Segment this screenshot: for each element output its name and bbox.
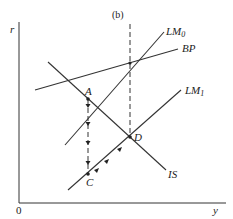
arrow-up-right-icon bbox=[94, 168, 99, 173]
diagram-title: (b) bbox=[112, 9, 124, 21]
lm1-curve bbox=[68, 90, 181, 190]
is-curve bbox=[48, 62, 166, 170]
point-d bbox=[128, 135, 132, 139]
y-axis-label: r bbox=[10, 23, 15, 35]
point-c-label: C bbox=[86, 176, 94, 188]
lm0-curve bbox=[65, 32, 164, 145]
arrow-down-icon bbox=[86, 122, 91, 126]
diagram-canvas: (b) r 0 y BP LM0 IS LM1 A D C bbox=[0, 0, 233, 219]
point-d-label: D bbox=[133, 131, 142, 143]
arrow-down-icon bbox=[86, 161, 91, 165]
point-a-label: A bbox=[84, 85, 92, 97]
arrow-down-icon bbox=[86, 104, 91, 108]
x-axis-label: y bbox=[212, 204, 218, 216]
arrow-up-right-icon bbox=[104, 159, 109, 164]
origin-label: 0 bbox=[16, 204, 22, 216]
islm-bp-diagram: (b) r 0 y BP LM0 IS LM1 A D C bbox=[0, 0, 233, 219]
point-a bbox=[86, 97, 90, 101]
bp-label: BP bbox=[182, 42, 196, 54]
arrow-down-icon bbox=[86, 141, 91, 145]
is-label: IS bbox=[167, 168, 178, 180]
arrow-up-right-icon bbox=[117, 147, 122, 152]
lm1-label: LM1 bbox=[184, 84, 204, 98]
point-lm0-bp-intersection bbox=[128, 61, 131, 64]
lm0-label: LM0 bbox=[165, 25, 185, 39]
